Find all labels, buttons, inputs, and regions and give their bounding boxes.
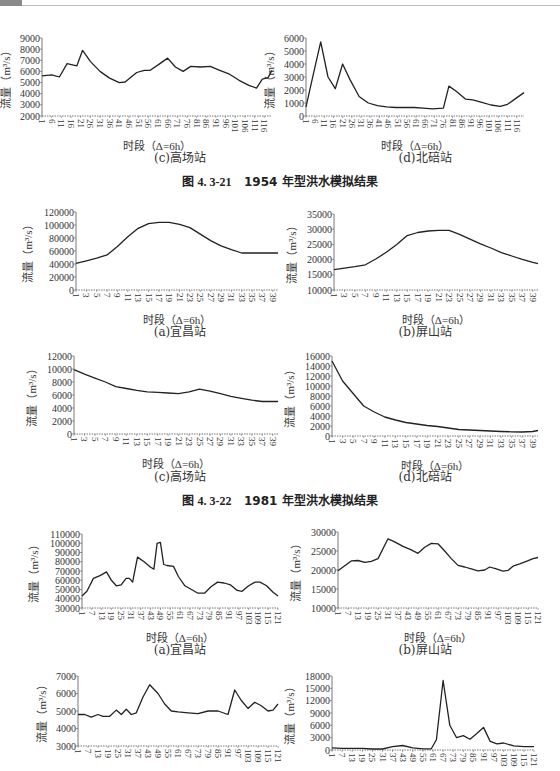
y-tick-label: 7000 xyxy=(56,671,76,682)
x-tick-label: 55 xyxy=(423,611,433,621)
x-tick-label: 31 xyxy=(356,119,366,128)
x-tick-label: 33 xyxy=(236,437,246,447)
x-tick-label: 101 xyxy=(484,119,494,133)
x-tick-label: 29 xyxy=(475,293,485,303)
x-tick-label: 19 xyxy=(363,611,373,621)
x-tick-label: 21 xyxy=(76,119,86,128)
x-tick-label: 85 xyxy=(473,611,483,621)
x-tick-label: 115 xyxy=(523,611,533,625)
line-chart-svg: 0200040006000800010000120001400016000流量（… xyxy=(280,348,560,474)
y-tick-label: 6000 xyxy=(20,66,40,77)
x-tick-label: 73 xyxy=(448,753,458,763)
x-tick-label: 7 xyxy=(102,293,112,298)
x-tick-label: 91 xyxy=(223,749,233,758)
y-tick-label: 15000 xyxy=(307,269,332,280)
y-tick-label: 6000 xyxy=(284,33,304,44)
x-tick-label: 67 xyxy=(183,749,193,759)
chart-fig22-d-beibei: 0200040006000800010000120001400016000流量（… xyxy=(280,348,560,474)
y-tick-label: 12000 xyxy=(47,351,72,362)
x-tick-label: 1 xyxy=(329,293,339,298)
subcaption-fig22-b: (b)屏山站 xyxy=(365,322,485,339)
x-tick-label: 31 xyxy=(486,293,496,302)
flow-series-line xyxy=(78,685,278,717)
x-tick-label: 36 xyxy=(105,119,115,129)
chart-fig22-b-pingshan: 100001500020000250003000035000流量（m³/s）13… xyxy=(280,204,560,328)
y-tick-label: 8000 xyxy=(20,44,40,55)
x-tick-label: 85 xyxy=(468,753,478,763)
x-tick-label: 106 xyxy=(493,119,503,133)
x-tick-label: 25 xyxy=(373,611,383,621)
x-tick-label: 31 xyxy=(485,439,495,448)
x-tick-label: 1 xyxy=(71,293,81,298)
y-tick-label: 4000 xyxy=(20,88,40,99)
y-tick-label: 2000 xyxy=(20,111,40,122)
x-tick-label: 23 xyxy=(185,293,195,303)
subcaption-fig22-d: (d)北碚站 xyxy=(365,467,485,484)
x-tick-label: 9 xyxy=(111,437,121,442)
x-tick-label: 37 xyxy=(517,439,527,449)
x-tick-label: 15 xyxy=(144,293,154,303)
y-tick-label: 10000 xyxy=(305,381,330,392)
x-tick-label: 109 xyxy=(513,611,523,625)
subcaption-fig22-c: (c)高场站 xyxy=(120,467,240,484)
x-tick-label: 31 xyxy=(126,611,136,620)
chart-fig22-c-gaochang: 020004000600080001000012000流量（m³/s）13579… xyxy=(0,348,280,472)
x-tick-label: 27 xyxy=(465,293,475,303)
x-tick-label: 7 xyxy=(100,437,110,442)
y-tick-label: 6000 xyxy=(52,390,72,401)
x-tick-label: 97 xyxy=(234,611,244,621)
x-tick-label: 121 xyxy=(529,753,539,767)
x-tick-label: 67 xyxy=(185,611,195,621)
x-tick-label: 71 xyxy=(429,119,439,128)
y-tick-label: 3000 xyxy=(56,741,76,752)
x-tick-label: 97 xyxy=(489,753,499,763)
line-chart-svg: 20003000400050006000700080009000流量（m³/s）… xyxy=(0,28,280,154)
flow-series-line xyxy=(76,222,278,263)
x-tick-label: 19 xyxy=(422,439,432,449)
y-tick-label: 10000 xyxy=(311,603,336,614)
line-chart-svg: 0100020003000400050006000流量（m³/s）1611162… xyxy=(280,28,560,154)
x-tick-label: 17 xyxy=(153,437,163,447)
x-tick-label: 9 xyxy=(369,439,379,444)
x-tick-label: 116 xyxy=(259,119,269,133)
x-tick-label: 11 xyxy=(381,293,391,302)
x-tick-label: 15 xyxy=(142,437,152,447)
x-tick-label: 101 xyxy=(230,119,240,133)
x-tick-label: 79 xyxy=(203,749,213,759)
x-tick-label: 31 xyxy=(383,611,393,620)
x-tick-label: 97 xyxy=(493,611,503,621)
x-tick-label: 29 xyxy=(216,293,226,303)
line-chart-svg: 30004000500060007000流量（m³/s）171319253137… xyxy=(0,668,280,771)
y-tick-label: 3000 xyxy=(20,99,40,110)
subcaption-fig21-c: (c)高场站 xyxy=(120,148,240,165)
y-tick-label: 110000 xyxy=(50,529,80,540)
x-tick-label: 26 xyxy=(347,119,357,129)
y-tick-label: 9000 xyxy=(20,33,40,44)
x-tick-label: 13 xyxy=(347,753,357,763)
line-chart-svg: 0300060009000120001500018000流量（m³/s）1713… xyxy=(280,668,560,771)
x-tick-label: 7 xyxy=(359,439,369,444)
x-tick-label: 51 xyxy=(134,119,144,128)
x-tick-label: 3 xyxy=(81,293,91,298)
x-tick-label: 66 xyxy=(420,119,430,129)
x-tick-label: 49 xyxy=(155,611,165,621)
x-tick-label: 61 xyxy=(175,611,185,620)
x-tick-label: 19 xyxy=(106,611,116,621)
y-tick-label: 10000 xyxy=(307,285,332,296)
x-tick-label: 13 xyxy=(132,437,142,447)
x-tick-label: 11 xyxy=(319,119,329,128)
x-tick-label: 33 xyxy=(496,439,506,449)
chart-fig22-a-yichang: 020000400006000080000100000120000流量（m³/s… xyxy=(0,204,280,328)
y-tick-label: 3000 xyxy=(284,72,304,83)
x-tick-label: 36 xyxy=(365,119,375,129)
x-tick-label: 19 xyxy=(103,749,113,759)
y-tick-label: 20000 xyxy=(307,254,332,265)
x-tick-label: 19 xyxy=(163,437,173,447)
x-tick-label: 16 xyxy=(66,119,76,129)
x-tick-label: 7 xyxy=(87,611,97,616)
x-tick-label: 86 xyxy=(201,119,211,129)
x-tick-label: 11 xyxy=(123,293,133,302)
x-tick-label: 37 xyxy=(257,437,267,447)
x-tick-label: 43 xyxy=(146,611,156,621)
x-tick-label: 3 xyxy=(338,439,348,444)
